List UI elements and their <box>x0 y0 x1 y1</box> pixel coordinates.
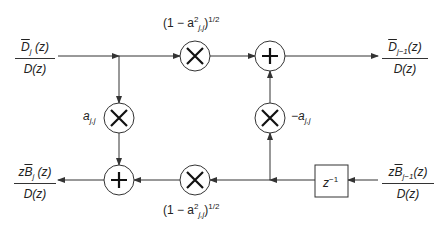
output-bottom-label: zBj (z) D(z) <box>14 165 56 201</box>
multiply-node-right <box>255 103 285 133</box>
lattice-diagram <box>0 0 445 233</box>
input-top-label: Dj (z) D(z) <box>15 40 55 76</box>
left-gain-label: aj,j <box>83 110 95 125</box>
multiply-node-bottom <box>180 165 210 195</box>
multiply-node-top <box>180 41 210 71</box>
delay-label: z−1 <box>323 176 338 189</box>
top-gain-label: (1 − a2j,j)1/2 <box>163 16 219 32</box>
right-gain-label: −aj,j <box>291 110 310 125</box>
sum-node-bottom <box>104 165 134 195</box>
bottom-gain-label: (1 − a2j,j)1/2 <box>163 203 219 219</box>
multiply-node-left <box>104 103 134 133</box>
sum-node-top <box>255 41 285 71</box>
input-bottom-label: zBj−1(z) D(z) <box>382 165 434 201</box>
output-top-label: Dj−1(z) D(z) <box>382 40 428 76</box>
